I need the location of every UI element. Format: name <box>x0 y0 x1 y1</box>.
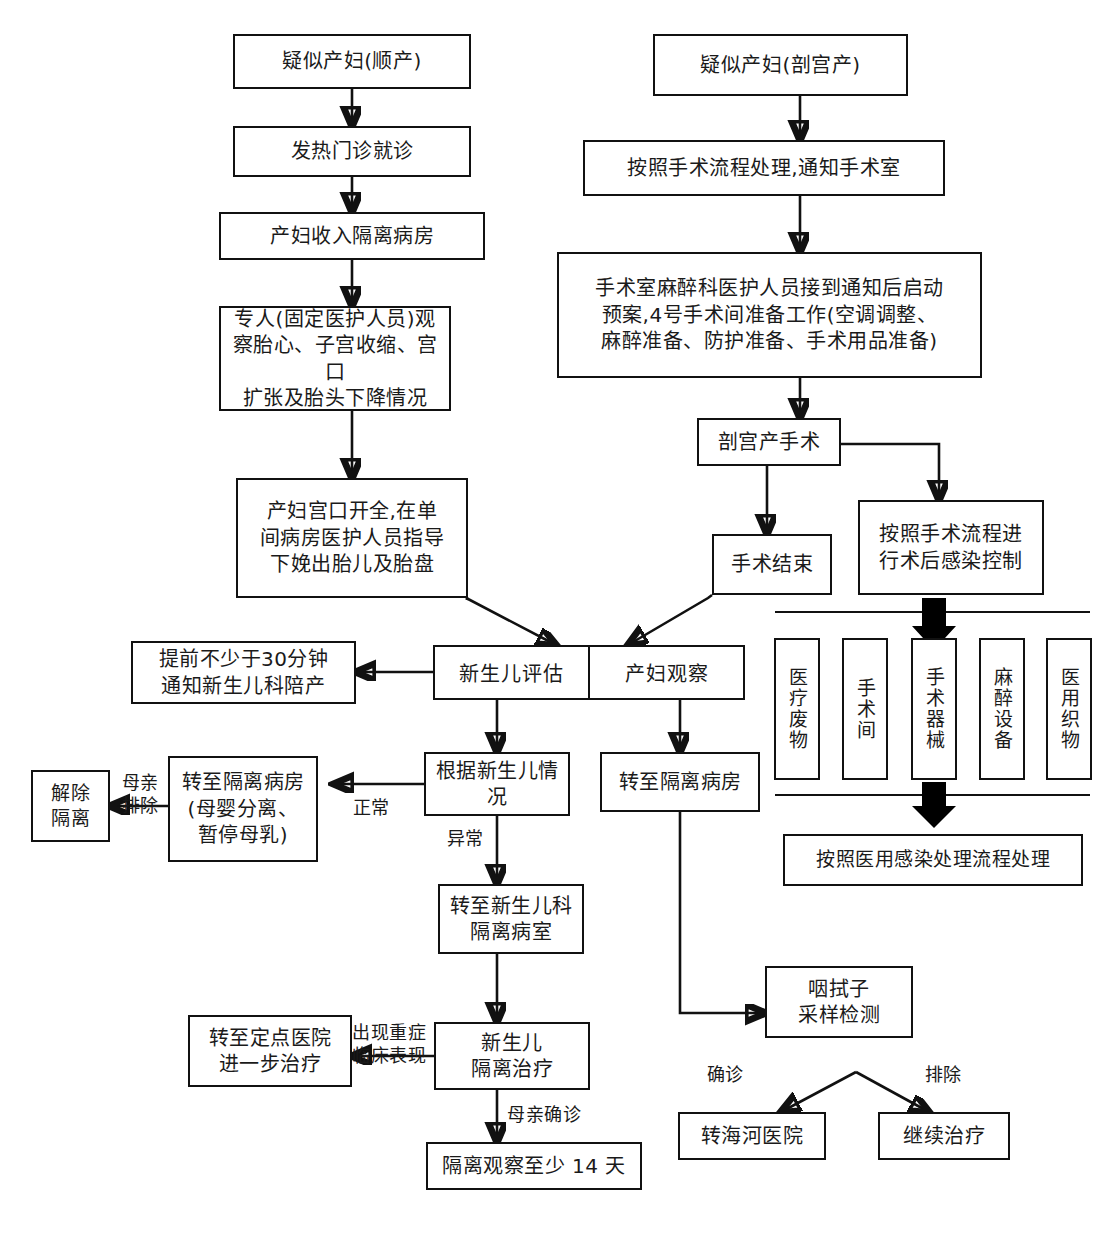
node-transfer-haihe-hospital[interactable]: 转海河医院 <box>678 1112 826 1160</box>
node-transfer-nicu-isolation[interactable]: 转至新生儿科 隔离病室 <box>438 884 584 954</box>
node-transfer-designated-hospital[interactable]: 转至定点医院 进一步治疗 <box>188 1015 352 1087</box>
edge-label-confirmed: 确诊 <box>700 1064 750 1087</box>
edge-label-abnormal: 异常 <box>440 828 490 851</box>
node-release-isolation[interactable]: 解除 隔离 <box>31 770 110 842</box>
node-notify-pediatrics[interactable]: 提前不少于30分钟 通知新生儿科陪产 <box>131 641 356 704</box>
node-disinfect-operating-room[interactable]: 手术间 <box>842 638 888 780</box>
node-mother-isolation-separation[interactable]: 转至隔离病房 (母婴分离、 暂停母乳) <box>168 756 318 862</box>
node-newborn-evaluation[interactable]: 新生儿评估 <box>435 647 590 698</box>
edge-label-mother-excluded: 母亲 排除 <box>114 772 166 817</box>
node-surgery-end[interactable]: 手术结束 <box>712 534 832 595</box>
node-disinfect-medical-waste[interactable]: 医疗废物 <box>774 638 820 780</box>
node-continue-treatment[interactable]: 继续治疗 <box>878 1112 1010 1160</box>
node-dedicated-monitoring[interactable]: 专人(固定医护人员)观 察胎心、子宫收缩、宫口 扩张及胎头下降情况 <box>219 306 451 411</box>
node-full-dilation-delivery[interactable]: 产妇宫口开全,在单 间病房医护人员指导 下娩出胎儿及胎盘 <box>236 478 468 598</box>
node-eval-observe-pair: 新生儿评估 产妇观察 <box>433 645 745 700</box>
node-infection-handling-process[interactable]: 按照医用感染处理流程处理 <box>783 834 1083 886</box>
node-right-start[interactable]: 疑似产妇(剖宫产) <box>653 34 908 96</box>
node-or-anesthesia-prep[interactable]: 手术室麻醉科医护人员接到通知后启动 预案,4号手术间准备工作(空调调整、 麻醉准… <box>557 252 982 378</box>
node-observe-14-days[interactable]: 隔离观察至少 14 天 <box>426 1142 642 1190</box>
edge-label-severe-symptoms: 出现重症 临床表现 <box>352 1022 436 1067</box>
node-cesarean-surgery[interactable]: 剖宫产手术 <box>697 418 841 466</box>
node-post-op-infection-control[interactable]: 按照手术流程进 行术后感染控制 <box>858 500 1044 595</box>
node-admit-isolation-ward[interactable]: 产妇收入隔离病房 <box>219 212 485 260</box>
node-fever-clinic[interactable]: 发热门诊就诊 <box>233 126 471 177</box>
node-left-start[interactable]: 疑似产妇(顺产) <box>233 34 471 89</box>
node-mother-transfer-isolation[interactable]: 转至隔离病房 <box>600 752 760 812</box>
node-disinfect-anesthesia-equipment[interactable]: 麻醉设备 <box>979 638 1025 780</box>
flowchart-canvas: 疑似产妇(顺产) 发热门诊就诊 产妇收入隔离病房 专人(固定医护人员)观 察胎心… <box>0 0 1118 1235</box>
node-disinfect-instruments[interactable]: 手术器械 <box>911 638 957 780</box>
node-maternal-observation[interactable]: 产妇观察 <box>590 647 743 698</box>
edge-label-excluded: 排除 <box>918 1064 968 1087</box>
edge-label-mother-confirmed: 母亲确诊 <box>507 1104 617 1127</box>
node-disinfect-medical-textiles[interactable]: 医用织物 <box>1046 638 1092 780</box>
node-newborn-condition[interactable]: 根据新生儿情况 <box>424 752 570 816</box>
edge-label-normal: 正常 <box>346 797 396 820</box>
node-throat-swab-test[interactable]: 咽拭子 采样检测 <box>765 966 913 1038</box>
node-newborn-isolation-treatment[interactable]: 新生儿 隔离治疗 <box>434 1022 590 1090</box>
node-surgical-process-notify[interactable]: 按照手术流程处理,通知手术室 <box>583 140 945 196</box>
